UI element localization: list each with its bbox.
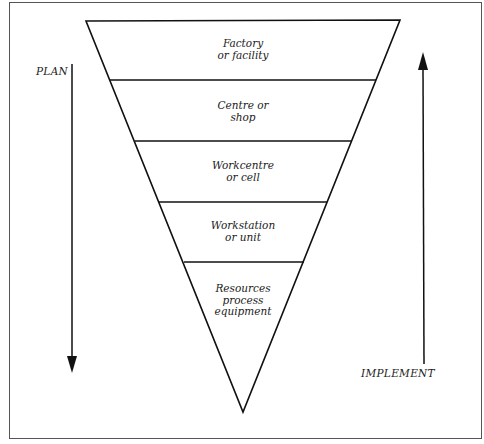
plan-label: PLAN <box>36 65 68 77</box>
level-label-workstation: Workstation or unit <box>211 220 275 243</box>
inverted-pyramid-outline <box>86 20 400 412</box>
level-label-factory: Factory or facility <box>218 38 269 61</box>
level-label-workcentre: Workcentre or cell <box>212 160 274 183</box>
implement-up-arrow <box>418 52 428 364</box>
plan-down-arrow <box>67 64 77 373</box>
level-label-centre: Centre or shop <box>217 100 268 123</box>
level-label-resources: Resources process equipment <box>215 283 272 318</box>
implement-label: IMPLEMENT <box>361 367 435 379</box>
